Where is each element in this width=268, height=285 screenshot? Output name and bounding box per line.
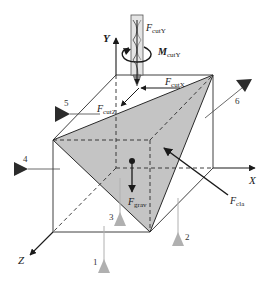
svg-text:4: 4 <box>23 154 28 164</box>
moment-cut-y-label: McutY <box>157 46 181 59</box>
locator-4-triangle-icon <box>14 162 28 176</box>
svg-text:6: 6 <box>235 96 240 106</box>
z-axis-label: Z <box>18 254 25 266</box>
locator-2: 2 <box>172 198 190 246</box>
force-cut-x-label: FcutX <box>164 76 185 89</box>
svg-text:1: 1 <box>93 257 98 267</box>
workpiece-shaded-face <box>53 75 213 232</box>
locator-1: 1 <box>93 226 110 273</box>
y-axis-label: Y <box>103 32 111 44</box>
moment-arrowhead-icon <box>123 48 131 55</box>
locator-6-triangle-icon <box>236 79 252 92</box>
locator-5-triangle-icon <box>55 106 70 122</box>
x-axis-label: X <box>248 174 257 186</box>
z-axis <box>30 232 53 255</box>
locator-5: 5 <box>55 98 100 122</box>
locator-2-triangle-icon <box>172 232 184 246</box>
fixture-force-diagram: Y X Z FcutY McutY FcutX FcutZ Fgrav Fcla… <box>0 0 268 285</box>
svg-text:5: 5 <box>64 98 69 108</box>
force-cut-y-label: FcutY <box>145 22 166 35</box>
svg-text:3: 3 <box>109 212 114 222</box>
force-cut-z-arrow <box>121 88 139 106</box>
force-clamp-label: Fcla <box>229 195 245 208</box>
locator-1-triangle-icon <box>98 259 110 273</box>
svg-text:2: 2 <box>185 232 190 242</box>
locator-3-triangle-icon <box>114 212 126 226</box>
locator-6: 6 <box>205 79 252 118</box>
